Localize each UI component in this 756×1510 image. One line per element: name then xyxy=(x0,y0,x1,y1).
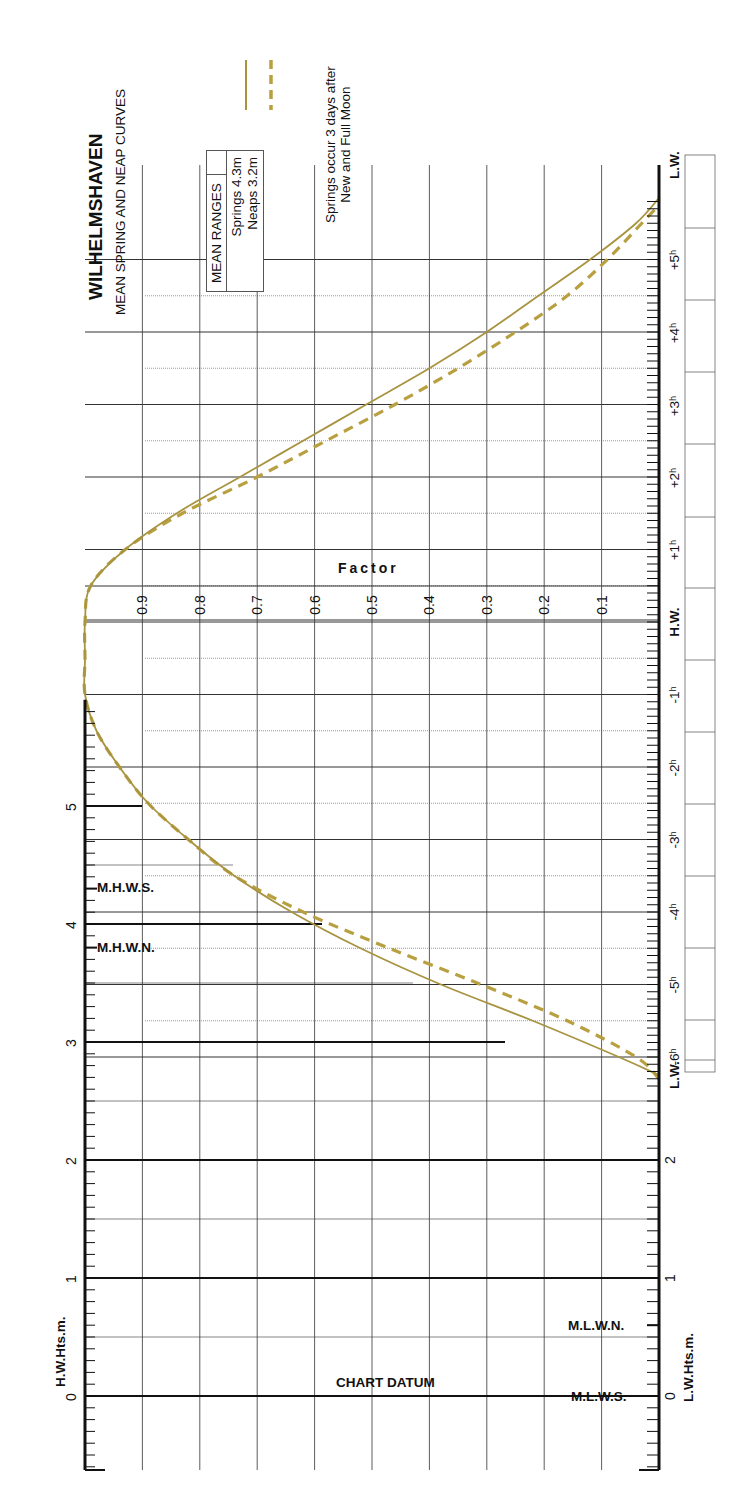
hw-height-tick-label: 2 xyxy=(63,1157,79,1165)
note-line-1: Springs occur 3 days after xyxy=(323,66,338,223)
hw-height-tick-label: 5 xyxy=(63,803,79,811)
time-tick-label: H.W. xyxy=(667,607,682,636)
factor-tick-label: 0.6 xyxy=(307,595,323,615)
time-tick-label: -3ʰ xyxy=(667,831,682,848)
factor-tick-label: 0.4 xyxy=(421,595,437,615)
legend-line-samples xyxy=(240,55,280,115)
factor-tick-label: 0.2 xyxy=(536,595,552,615)
lw-height-tick-label: 2 xyxy=(662,1156,678,1164)
hw-height-tick-label: 3 xyxy=(63,1039,79,1047)
factor-tick-label: 0.1 xyxy=(594,595,610,615)
time-tick-label: +3ʰ xyxy=(667,396,682,417)
time-tick-label: -6ʰ xyxy=(667,1048,682,1065)
time-tick-label: -1ʰ xyxy=(667,686,682,703)
time-box-column xyxy=(685,155,715,1072)
legend-neaps: Neaps 3.2m xyxy=(245,157,261,285)
hw-height-tick-label: 0 xyxy=(63,1393,79,1401)
time-tick-label: +5ʰ xyxy=(667,250,682,271)
factor-label: Factor xyxy=(338,560,399,576)
factor-tick-label: 0.8 xyxy=(192,595,208,615)
note-line-2: New and Full Moon xyxy=(338,66,353,223)
lw-heights-axis-title: L.W.Hts.m. xyxy=(681,1333,696,1402)
time-tick-label: +1ʰ xyxy=(667,540,682,561)
factor-tick-label: 0.3 xyxy=(479,595,495,615)
hw-heights-axis-title: H.W.Hts.m. xyxy=(53,1316,68,1387)
time-tick-label: -4ʰ xyxy=(667,903,682,920)
time-tick-label: L.W. xyxy=(667,151,682,179)
mhwn-marker: M.H.W.N. xyxy=(97,940,155,955)
time-tick-label: +2ʰ xyxy=(667,468,682,489)
chart-subtitle: MEAN SPRING AND NEAP CURVES xyxy=(113,89,128,315)
hw-height-tick-label: 4 xyxy=(63,921,79,929)
chart-datum-label: CHART DATUM xyxy=(336,1375,435,1390)
springs-curve xyxy=(84,198,659,1075)
time-tick-label: -2ʰ xyxy=(667,759,682,776)
legend-header: MEAN RANGES xyxy=(209,183,224,283)
factor-tick-label: 0.7 xyxy=(249,595,265,615)
mhws-marker: M.H.W.S. xyxy=(97,880,154,895)
neaps-curve xyxy=(84,205,659,1079)
grid-lines xyxy=(85,165,659,1470)
axes: 012345L.W.-6ʰ-5ʰ-4ʰ-3ʰ-2ʰ-1ʰH.W.+1ʰ+2ʰ+3… xyxy=(63,151,715,1470)
factor-tick-label: 0.9 xyxy=(134,595,150,615)
lw-height-tick-label: 1 xyxy=(662,1274,678,1282)
time-tick-label: +4ʰ xyxy=(667,323,682,344)
legend-springs: Springs 4.3m xyxy=(229,157,245,285)
legend: MEAN RANGES Springs 4.3m Neaps 3.2m xyxy=(206,150,264,292)
mlws-marker: M.L.W.S. xyxy=(571,1389,627,1404)
hw-height-tick-label: 1 xyxy=(63,1275,79,1283)
mlwn-marker: M.L.W.N. xyxy=(568,1318,624,1333)
lw-height-tick-label: 0 xyxy=(662,1392,678,1400)
chart-title: WILHELMSHAVEN xyxy=(85,134,107,300)
tidal-curves xyxy=(84,198,659,1079)
springs-note: Springs occur 3 days after New and Full … xyxy=(323,66,353,223)
time-tick-label: -5ʰ xyxy=(667,976,682,993)
factor-tick-label: 0.5 xyxy=(364,595,380,615)
